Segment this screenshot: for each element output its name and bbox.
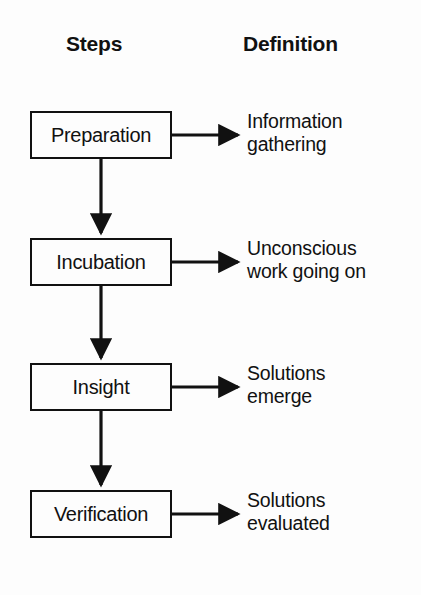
- step-label-incubation: Incubation: [56, 252, 145, 272]
- definition-insight-line1: Solutions: [247, 362, 419, 385]
- step-label-insight: Insight: [73, 377, 130, 397]
- step-label-preparation: Preparation: [51, 125, 151, 145]
- definition-incubation: Unconscious work going on: [247, 237, 419, 283]
- definition-incubation-line2: work going on: [247, 260, 419, 283]
- definition-preparation-line1: Information: [247, 110, 419, 133]
- step-label-verification: Verification: [54, 504, 148, 524]
- definition-verification: Solutions evaluated: [247, 489, 419, 535]
- step-box-verification[interactable]: Verification: [30, 490, 172, 538]
- definition-preparation: Information gathering: [247, 110, 419, 156]
- definition-verification-line1: Solutions: [247, 489, 419, 512]
- definition-preparation-line2: gathering: [247, 133, 419, 156]
- column-header-definition: Definition: [243, 32, 338, 56]
- definition-insight-line2: emerge: [247, 385, 419, 408]
- flowchart-canvas: Steps Definition Preparation Incubation …: [0, 0, 421, 595]
- column-header-steps: Steps: [66, 32, 122, 56]
- step-box-preparation[interactable]: Preparation: [30, 111, 172, 159]
- step-box-insight[interactable]: Insight: [30, 363, 172, 411]
- definition-incubation-line1: Unconscious: [247, 237, 419, 260]
- step-box-incubation[interactable]: Incubation: [30, 238, 172, 286]
- definition-insight: Solutions emerge: [247, 362, 419, 408]
- definition-verification-line2: evaluated: [247, 512, 419, 535]
